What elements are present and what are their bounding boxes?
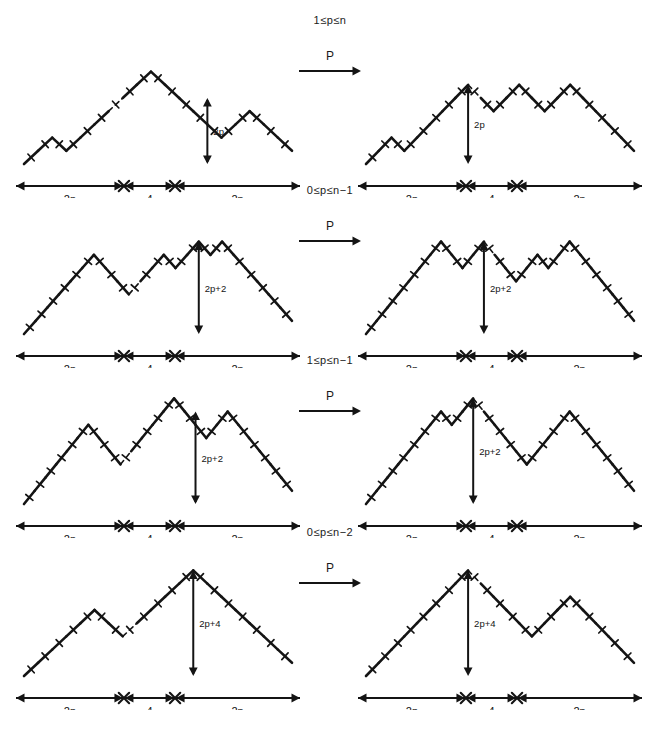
height-label: 2p: [474, 119, 485, 130]
baseline-segment-label: 2n: [64, 705, 76, 710]
path-transformation-figure: 1≤p≤nP2p2n42n2p2n42n0≤p≤n−1P2p+22n42n2p+…: [0, 0, 660, 747]
baseline-segment-label: 2n: [573, 705, 585, 710]
height-label: 2p: [213, 126, 224, 137]
path-row1-right: 2p2n42n: [350, 8, 650, 198]
transformation-row: 0≤p≤n−2P2p+42n42n2p+42n42n: [0, 520, 660, 710]
transformation-row: 0≤p≤n−1P2p+22n42n2p+22n42n: [0, 178, 660, 368]
path-row1-left: 2p2n42n: [8, 8, 308, 198]
height-label: 2p+2: [479, 446, 500, 457]
path-row2-right: 2p+22n42n: [350, 178, 650, 368]
height-label: 2p+2: [202, 453, 223, 464]
path-row3-left: 2p+22n42n: [8, 348, 308, 538]
path-row4-right: 2p+42n42n: [350, 520, 650, 710]
baseline-segment-label: 4: [488, 705, 494, 710]
baseline-segment-label: 2n: [406, 705, 418, 710]
height-label: 2p+2: [490, 283, 511, 294]
path-row4-left: 2p+42n42n: [8, 520, 308, 710]
transformation-row: 1≤p≤nP2p2n42n2p2n42n: [0, 8, 660, 198]
height-label: 2p+2: [205, 283, 226, 294]
path-row2-left: 2p+22n42n: [8, 178, 308, 368]
transformation-row: 1≤p≤n−1P2p+22n42n2p+22n42n: [0, 348, 660, 538]
height-label: 2p+4: [199, 618, 220, 629]
baseline-segment-label: 2n: [231, 705, 243, 710]
height-label: 2p+4: [474, 618, 495, 629]
path-row3-right: 2p+22n42n: [350, 348, 650, 538]
baseline-segment-label: 4: [146, 705, 152, 710]
